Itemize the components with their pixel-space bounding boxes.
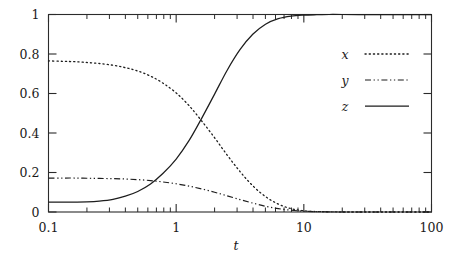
legend-label-y: y — [340, 73, 349, 88]
chart-container: 0.1110100 00.20.40.60.81 t xyz — [0, 0, 458, 262]
legend-label-z: z — [341, 99, 349, 114]
y-tick-label: 0.4 — [20, 126, 40, 141]
x-tick-label: 1 — [172, 220, 180, 235]
y-tick-label: 0 — [32, 205, 40, 220]
chart-background — [0, 0, 458, 262]
y-tick-label: 0.8 — [20, 47, 40, 62]
y-tick-label: 1 — [32, 7, 40, 22]
x-tick-label: 100 — [420, 220, 444, 235]
x-tick-label: 0.1 — [39, 220, 59, 235]
x-tick-label: 10 — [296, 220, 312, 235]
line-chart: 0.1110100 00.20.40.60.81 t xyz — [0, 0, 458, 262]
legend-label-x: x — [341, 47, 348, 62]
y-tick-label: 0.6 — [20, 86, 40, 101]
y-tick-label: 0.2 — [20, 165, 40, 180]
